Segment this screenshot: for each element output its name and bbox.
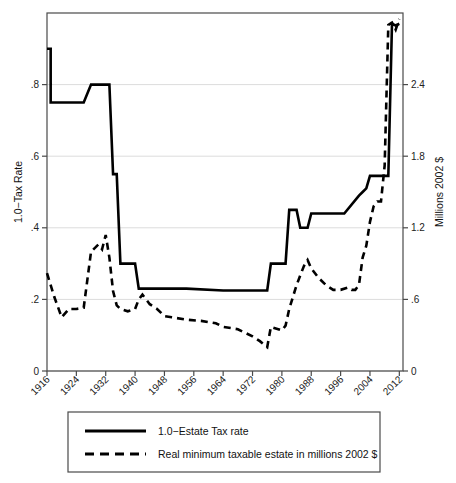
- x-tick-label-7: 1972: [234, 373, 258, 397]
- series-line-1: [47, 24, 399, 291]
- x-tick-label-3: 1940: [116, 373, 140, 397]
- x-tick-label-11: 2004: [351, 373, 375, 397]
- x-tick-label-6: 1964: [205, 373, 229, 397]
- plot-border: [47, 13, 403, 371]
- chart-canvas: 0.2.4.6.8 0.61.21.82.4 19161924193219401…: [0, 0, 456, 483]
- y-tick-label-2: .4: [31, 222, 40, 233]
- y-tick-label-4: .8: [31, 79, 40, 90]
- y-tick-label-0: 0: [33, 366, 39, 377]
- x-tick-label-8: 1980: [263, 373, 287, 397]
- y2-tick-label-2: 1.2: [411, 222, 425, 233]
- estate-tax-chart-figure: 0.2.4.6.8 0.61.21.82.4 19161924193219401…: [0, 0, 456, 483]
- x-tick-label-0: 1916: [28, 373, 52, 397]
- legend-label-2: Real minimum taxable estate in millions …: [158, 448, 378, 460]
- x-tick-label-9: 1988: [293, 373, 317, 397]
- x-axis-ticks: 1916192419321940194819561964197219801988…: [28, 371, 404, 397]
- y2-tick-label-0: 0: [411, 366, 417, 377]
- x-tick-label-2: 1932: [87, 373, 111, 397]
- y2-tick-label-1: .6: [411, 294, 420, 305]
- y-axis-left-ticks: 0.2.4.6.8: [31, 79, 47, 376]
- plot-frame: [47, 13, 403, 371]
- x-tick-label-4: 1948: [146, 373, 170, 397]
- y-axis-left-title: 1.0−Tax Rate: [12, 161, 24, 223]
- chart-legend: 1.0−Estate Tax rateReal minimum taxable …: [68, 412, 380, 472]
- y2-tick-label-4: 2.4: [411, 79, 425, 90]
- x-tick-label-5: 1956: [175, 373, 199, 397]
- y-axis-right-title: Millions 2002 $: [433, 157, 445, 227]
- series-line-2: [47, 19, 399, 347]
- y-tick-label-1: .2: [31, 294, 40, 305]
- x-tick-label-1: 1924: [58, 373, 82, 397]
- y-axis-right-ticks: 0.61.21.82.4: [403, 79, 425, 376]
- y2-tick-label-3: 1.8: [411, 151, 425, 162]
- axis-titles-group: 1.0−Tax RateMillions 2002 $: [12, 157, 445, 227]
- legend-box: [68, 412, 380, 472]
- data-series-group: [47, 19, 399, 347]
- y-tick-label-3: .6: [31, 151, 40, 162]
- legend-label-1: 1.0−Estate Tax rate: [158, 425, 249, 437]
- x-tick-label-12: 2012: [381, 373, 405, 397]
- x-tick-label-10: 1996: [322, 373, 346, 397]
